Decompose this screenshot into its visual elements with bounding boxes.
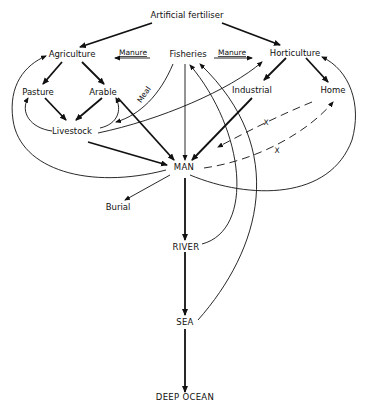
edge-livestock-man bbox=[88, 142, 167, 165]
label-x2: X bbox=[274, 146, 279, 155]
node-man: MAN bbox=[174, 162, 194, 172]
edge-fertiliser-agriculture bbox=[80, 23, 152, 47]
node-arable: Arable bbox=[89, 87, 117, 97]
node-industrial: Industrial bbox=[232, 85, 272, 95]
edge-arable-man bbox=[118, 98, 174, 160]
edge-man-horticulture bbox=[190, 57, 355, 191]
edge-agriculture-arable bbox=[82, 62, 104, 84]
edge-horticulture-home bbox=[306, 58, 328, 82]
edge-man-home-dashed bbox=[204, 102, 333, 168]
nodes: Artificial fertiliser Agriculture Fisher… bbox=[22, 8, 345, 402]
edge-arable-livestock bbox=[76, 98, 102, 120]
edge-labels: Manure Manure Meal X X bbox=[119, 48, 280, 155]
edge-horticulture-industrial bbox=[264, 58, 286, 80]
edge-fertiliser-horticulture bbox=[222, 23, 280, 45]
node-fisheries: Fisheries bbox=[169, 49, 207, 59]
node-agriculture: Agriculture bbox=[49, 49, 96, 59]
label-x1: X bbox=[263, 118, 268, 127]
edge-pasture-livestock bbox=[45, 98, 66, 120]
node-artificial-fertiliser: Artificial fertiliser bbox=[151, 10, 224, 20]
nutrient-flow-diagram: Artificial fertiliser Agriculture Fisher… bbox=[0, 0, 366, 408]
edge-man-agriculture bbox=[12, 56, 166, 178]
node-pasture: Pasture bbox=[22, 87, 54, 97]
edge-livestock-arable bbox=[100, 98, 119, 128]
edge-industrial-man bbox=[192, 98, 252, 160]
node-river: RIVER bbox=[172, 242, 199, 252]
label-manure-left: Manure bbox=[119, 48, 147, 57]
node-horticulture: Horticulture bbox=[270, 48, 320, 58]
label-manure-right: Manure bbox=[218, 48, 246, 57]
edge-livestock-pasture bbox=[25, 98, 52, 131]
node-sea: SEA bbox=[176, 317, 193, 327]
edges bbox=[12, 23, 355, 392]
node-livestock: Livestock bbox=[52, 126, 92, 136]
node-deep-ocean: DEEP OCEAN bbox=[156, 392, 214, 402]
edge-man-burial bbox=[125, 175, 170, 200]
node-home: Home bbox=[320, 85, 345, 95]
edge-agriculture-pasture bbox=[43, 62, 62, 84]
edge-livestock-horticulture bbox=[98, 62, 262, 133]
label-meal: Meal bbox=[135, 85, 153, 105]
node-burial: Burial bbox=[106, 202, 131, 212]
